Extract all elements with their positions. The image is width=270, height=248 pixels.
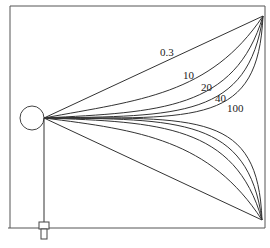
connector-icon bbox=[39, 222, 49, 239]
curve-label: 0.3 bbox=[160, 46, 174, 58]
diagram-canvas: 0.3 10 20 40 100 bbox=[0, 0, 270, 248]
lower-field-lines bbox=[44, 118, 262, 220]
source-circle bbox=[20, 106, 44, 130]
curve-label: 40 bbox=[215, 92, 227, 104]
curve-label: 10 bbox=[183, 69, 195, 81]
curve-label: 20 bbox=[201, 81, 213, 93]
curve-label: 100 bbox=[227, 102, 244, 114]
